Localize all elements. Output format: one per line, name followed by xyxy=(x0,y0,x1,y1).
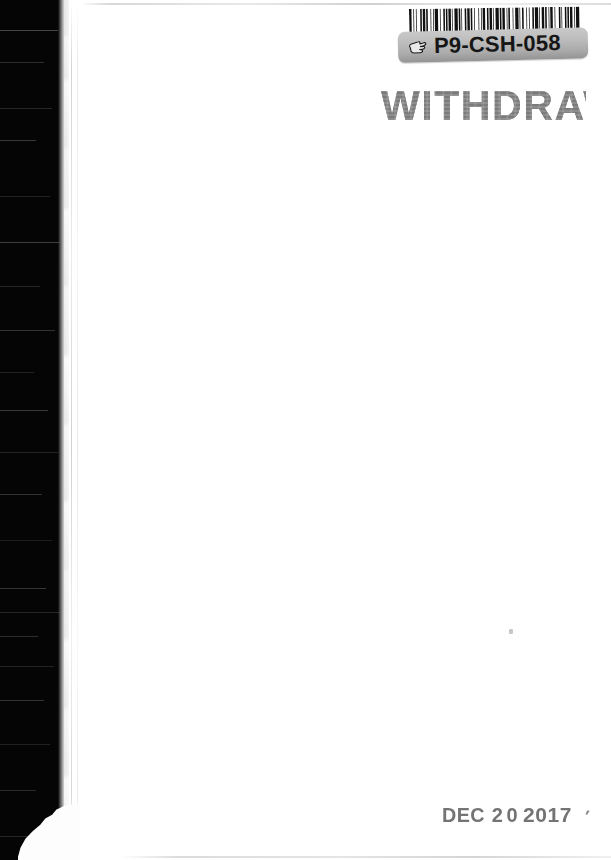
call-number-text: P9-CSH-058 xyxy=(434,32,561,57)
ink-speck xyxy=(509,629,513,634)
light-streak xyxy=(0,744,50,745)
light-streak xyxy=(0,108,52,109)
light-streak xyxy=(0,62,44,63)
light-streak xyxy=(0,636,38,637)
light-streak xyxy=(0,330,55,331)
date-stamp-day-2: 0 xyxy=(506,804,518,827)
light-streak xyxy=(0,836,30,837)
light-streak xyxy=(0,452,58,453)
light-streak xyxy=(0,540,52,541)
scanner-gutter-band xyxy=(0,0,64,860)
spine-crease xyxy=(71,0,72,860)
scan-edge-line-top xyxy=(78,3,611,5)
light-streak xyxy=(0,700,44,701)
withdrawn-stamp-text: WITHDRAWN xyxy=(381,84,586,128)
light-streak xyxy=(0,242,60,243)
date-stamp-month: DEC xyxy=(442,803,485,827)
light-streak xyxy=(0,790,36,791)
light-streak xyxy=(0,494,42,495)
light-streak xyxy=(0,588,46,589)
scanned-page: P9-CSH-058 WITHDRAWN DEC 2 0 2017 ′ xyxy=(0,0,611,860)
date-stamp: DEC 2 0 2017 ′ xyxy=(442,803,582,831)
light-streak xyxy=(0,666,54,667)
call-number-label: P9-CSH-058 xyxy=(398,27,589,63)
date-stamp-year: 2017 xyxy=(523,803,572,827)
paper-surface xyxy=(0,0,611,860)
scan-edge-line-bottom xyxy=(120,856,611,858)
light-streak xyxy=(0,612,60,613)
light-streak xyxy=(0,286,40,287)
light-streak xyxy=(0,196,50,197)
light-streak xyxy=(0,140,36,141)
light-streak xyxy=(0,372,34,373)
light-streak xyxy=(0,30,58,31)
pointing-hand-icon xyxy=(407,37,429,58)
date-stamp-day-1: 2 xyxy=(492,804,504,827)
withdrawn-stamp: WITHDRAWN xyxy=(381,84,586,128)
light-streak xyxy=(0,410,48,411)
spine-crease-secondary xyxy=(77,0,78,860)
